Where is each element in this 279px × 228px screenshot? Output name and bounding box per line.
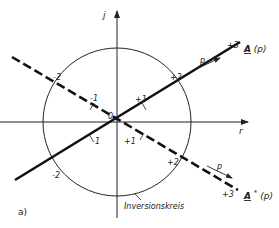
vertical-axis-label: j xyxy=(101,10,106,20)
direction-label-upper: p xyxy=(199,56,205,65)
solid-line-name-main: A xyxy=(243,44,251,54)
circle-label: Inversionskreis xyxy=(124,202,184,211)
horizontal-axis-label: r xyxy=(239,126,244,136)
solid-line-name-arg: (p) xyxy=(254,44,267,54)
leader-line xyxy=(135,194,141,200)
dashed-line-name-sup: * xyxy=(254,189,258,197)
dashed-tick-label: +3 xyxy=(222,190,234,199)
dashed-line-name: A * (p) xyxy=(243,187,273,201)
direction-label-lower: p xyxy=(216,162,222,171)
dashed-line-name-arg: (p) xyxy=(260,191,273,201)
solid-line-A xyxy=(15,42,240,180)
tick-mark xyxy=(142,103,146,110)
dashed-line-A-star xyxy=(12,57,238,190)
origin-label: 0 xyxy=(108,112,113,121)
inversion-diagram: j r 0 -2 -1 +1 +2 +3 -2 -1 +1 +2 +3 p p … xyxy=(0,0,279,228)
dashed-tick-label: -1 xyxy=(90,94,98,103)
dashed-tick-label: +1 xyxy=(124,137,136,146)
dashed-line-name-main: A xyxy=(243,191,251,201)
solid-tick-label: -1 xyxy=(92,137,100,146)
solid-line-name: A (p) xyxy=(243,44,267,54)
solid-tick-label: +1 xyxy=(135,95,147,104)
direction-arrow-upper xyxy=(194,58,220,70)
dashed-tick-label: +2 xyxy=(167,158,179,167)
solid-tick-label: +2 xyxy=(170,73,182,82)
solid-tick-label: +3 xyxy=(227,41,239,50)
panel-label: a) xyxy=(18,207,27,217)
dashed-tick-label: -2 xyxy=(53,73,61,82)
solid-tick-label: -2 xyxy=(52,171,60,180)
